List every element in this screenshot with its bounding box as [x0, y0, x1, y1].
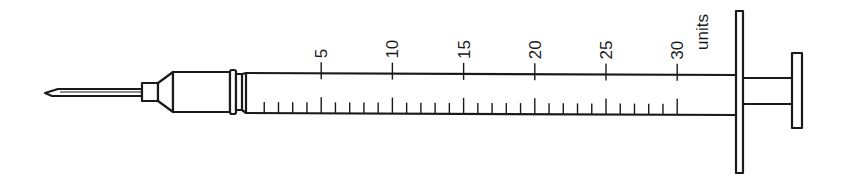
plunger-rod	[743, 78, 792, 104]
syringe-drawing: 51015202530 units	[0, 0, 845, 181]
barrel-collar	[230, 70, 242, 114]
scale-label: 25	[597, 41, 616, 60]
syringe-diagram: 51015202530 units	[0, 0, 845, 181]
scale-minor-ticks	[264, 97, 677, 114]
scale-label: 20	[526, 40, 545, 59]
units-label: units	[693, 14, 712, 50]
scale-label: 30	[668, 41, 687, 60]
needle	[45, 89, 142, 96]
scale-label: 5	[312, 49, 331, 58]
barrel	[242, 73, 736, 115]
needle-hub	[142, 72, 230, 112]
finger-flange	[736, 11, 743, 173]
plunger-thumb-rest	[792, 53, 802, 128]
scale-label: 10	[383, 40, 402, 59]
scale-label: 15	[455, 40, 474, 59]
